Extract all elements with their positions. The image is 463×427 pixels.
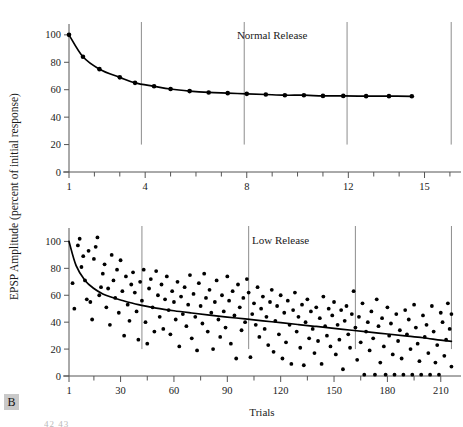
data-point <box>346 332 350 336</box>
data-point <box>195 349 199 353</box>
data-point <box>97 293 101 297</box>
data-point <box>245 277 249 281</box>
data-point <box>209 311 213 315</box>
data-point <box>318 316 322 320</box>
x-tick-label: 1 <box>66 181 71 192</box>
x-tick-label: 120 <box>273 385 289 396</box>
data-point <box>437 373 441 377</box>
data-point <box>284 340 288 344</box>
data-point <box>140 299 144 303</box>
y-tick-label: 0 <box>56 167 61 178</box>
data-point <box>361 301 365 305</box>
data-point <box>320 362 324 366</box>
data-point <box>410 373 414 377</box>
data-point <box>412 303 416 307</box>
data-point <box>201 322 205 326</box>
data-point <box>425 323 429 327</box>
data-point <box>211 347 215 351</box>
data-point <box>416 342 420 346</box>
data-point <box>147 287 151 291</box>
data-point <box>170 289 174 293</box>
data-point <box>236 283 240 287</box>
data-point <box>208 288 212 292</box>
data-marker <box>410 94 415 99</box>
data-point <box>163 297 167 301</box>
data-point <box>419 373 423 377</box>
data-point <box>297 315 301 319</box>
data-point <box>389 322 393 326</box>
data-point <box>133 291 137 295</box>
data-point <box>227 299 231 303</box>
data-point <box>128 319 132 323</box>
data-point <box>353 326 357 330</box>
data-point <box>241 296 245 300</box>
data-marker <box>321 94 326 99</box>
y-tick-label: 20 <box>51 344 62 355</box>
data-point <box>371 336 375 340</box>
data-point <box>380 316 384 320</box>
data-point <box>341 367 345 371</box>
data-point <box>202 272 206 276</box>
data-point <box>403 308 407 312</box>
data-point <box>309 310 313 314</box>
data-point <box>343 319 347 323</box>
data-point <box>172 300 176 304</box>
data-point <box>272 350 276 354</box>
data-point <box>432 330 436 334</box>
data-point <box>265 315 269 319</box>
data-point <box>439 311 443 315</box>
data-point <box>87 249 91 253</box>
data-point <box>152 330 156 334</box>
data-point <box>185 324 189 328</box>
x-tick-label: 8 <box>244 181 249 192</box>
y-tick-label: 100 <box>45 236 61 247</box>
data-point <box>446 301 450 305</box>
data-point <box>393 373 397 377</box>
data-point <box>368 349 372 353</box>
data-point <box>206 330 210 334</box>
data-point <box>120 289 124 293</box>
data-point <box>135 310 139 314</box>
scatter-points <box>71 235 454 376</box>
data-point <box>99 285 103 289</box>
data-marker <box>387 94 392 99</box>
data-point <box>188 273 192 277</box>
data-point <box>298 346 302 350</box>
data-point <box>229 342 233 346</box>
data-point <box>450 312 454 316</box>
data-point <box>307 336 311 340</box>
data-point <box>289 362 293 366</box>
chart-panel-low-release: 0204060801001306090120150180210Low Relea… <box>45 226 461 418</box>
data-point <box>357 315 361 319</box>
x-tick-label: 30 <box>115 385 126 396</box>
data-point <box>378 361 382 365</box>
data-point <box>373 373 377 377</box>
data-point <box>88 300 92 304</box>
data-point <box>231 289 235 293</box>
data-point <box>407 318 411 322</box>
data-point <box>254 323 258 327</box>
data-point <box>149 277 153 281</box>
data-point <box>350 312 354 316</box>
data-point <box>426 351 430 355</box>
panel-label-b: B <box>4 394 19 410</box>
data-point <box>348 346 352 350</box>
data-point <box>441 320 445 324</box>
data-point <box>257 335 261 339</box>
data-point <box>168 332 172 336</box>
data-point <box>78 237 82 241</box>
data-point <box>204 296 208 300</box>
data-point <box>400 357 404 361</box>
data-point <box>80 265 84 269</box>
data-point <box>402 373 406 377</box>
data-point <box>108 323 112 327</box>
data-point <box>386 305 390 309</box>
data-point <box>355 358 359 362</box>
data-marker <box>187 89 192 94</box>
data-point <box>117 311 121 315</box>
data-point <box>336 323 340 327</box>
data-point <box>183 285 187 289</box>
y-tick-label: 80 <box>51 263 62 274</box>
data-marker <box>81 55 86 60</box>
line-markers <box>67 33 414 99</box>
